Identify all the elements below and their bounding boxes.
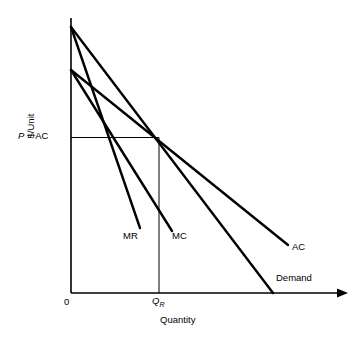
economics-chart-figure: $/Unit P = AC 0 QR Quantity MR MC AC Dem…: [0, 0, 355, 339]
ac-curve-label: AC: [292, 242, 305, 252]
mr-curve-label: MR: [123, 231, 138, 241]
mr-curve: [71, 27, 140, 228]
demand-curve: [71, 27, 273, 293]
quantity-point-label: QR: [152, 296, 164, 308]
ac-curve: [71, 70, 288, 245]
x-axis-title: Quantity: [160, 315, 195, 325]
demand-curve-label: Demand: [276, 273, 312, 283]
y-axis-title: $/Unit: [26, 96, 36, 156]
quantity-subscript-text: R: [159, 301, 164, 308]
x-axis-arrow-icon: [337, 288, 348, 297]
origin-label: 0: [64, 297, 69, 307]
mc-curve-label: MC: [172, 231, 187, 241]
chart-plot-area: [0, 0, 355, 339]
price-value-text: AC: [35, 130, 48, 141]
price-axis-label: P = AC: [18, 131, 48, 141]
price-equals-sign: =: [27, 130, 33, 141]
